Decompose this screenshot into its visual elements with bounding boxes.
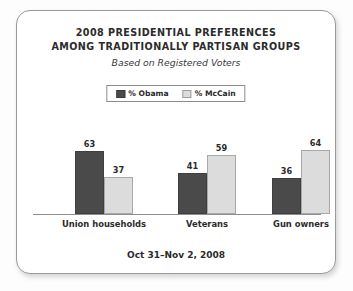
bar-obama-gun-owners[interactable]: 36 xyxy=(272,116,301,214)
light-swatch-icon xyxy=(183,90,192,98)
category-label-gun-owners: Gun owners xyxy=(273,219,329,229)
bar-rect-mccain-gun-owners xyxy=(301,150,330,214)
bar-value-obama-union-households: 63 xyxy=(84,140,95,149)
bar-mccain-gun-owners[interactable]: 64 xyxy=(301,116,330,214)
bar-rect-obama-gun-owners xyxy=(272,178,301,214)
chart-title-line-2: AMONG TRADITIONALLY PARTISAN GROUPS xyxy=(17,40,335,54)
dark-swatch-icon xyxy=(116,90,125,98)
legend-label-obama: % Obama xyxy=(128,89,168,98)
bar-value-obama-veterans: 41 xyxy=(187,162,198,171)
chart-title-block: 2008 PRESIDENTIAL PREFERENCES AMONG TRAD… xyxy=(17,26,335,71)
legend-item-mccain[interactable]: % McCain xyxy=(183,89,236,98)
legend-label-mccain: % McCain xyxy=(195,89,236,98)
chart-plot-area: 63 37 41 59 36 64 xyxy=(33,115,321,215)
category-label-veterans: Veterans xyxy=(186,219,228,229)
bar-mccain-union-households[interactable]: 37 xyxy=(104,116,133,214)
bar-group-union-households: 63 37 xyxy=(75,116,133,214)
chart-card: 2008 PRESIDENTIAL PREFERENCES AMONG TRAD… xyxy=(16,10,336,274)
category-label-union-households: Union households xyxy=(62,219,146,229)
bar-rect-mccain-veterans xyxy=(207,155,236,214)
bar-value-obama-gun-owners: 36 xyxy=(281,167,292,176)
legend-item-obama[interactable]: % Obama xyxy=(116,89,168,98)
bar-mccain-veterans[interactable]: 59 xyxy=(207,116,236,214)
bar-group-gun-owners: 36 64 xyxy=(272,116,330,214)
chart-title-line-1: 2008 PRESIDENTIAL PREFERENCES xyxy=(17,26,335,40)
bar-rect-obama-veterans xyxy=(178,173,207,214)
chart-footnote: Oct 31–Nov 2, 2008 xyxy=(17,250,335,260)
bar-rect-mccain-union-households xyxy=(104,177,133,214)
bar-obama-union-households[interactable]: 63 xyxy=(75,116,104,214)
bar-group-veterans: 41 59 xyxy=(178,116,236,214)
chart-subtitle: Based on Registered Voters xyxy=(17,55,335,71)
chart-baseline xyxy=(33,214,321,215)
bar-rect-obama-union-households xyxy=(75,151,104,214)
chart-legend: % Obama % McCain xyxy=(106,85,245,102)
bar-value-mccain-gun-owners: 64 xyxy=(310,139,321,148)
bar-value-mccain-veterans: 59 xyxy=(216,144,227,153)
chart-category-axis: Union households Veterans Gun owners xyxy=(33,219,321,233)
bar-value-mccain-union-households: 37 xyxy=(113,166,124,175)
bar-obama-veterans[interactable]: 41 xyxy=(178,116,207,214)
